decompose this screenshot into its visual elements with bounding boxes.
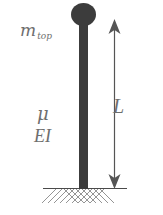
- tip-mass-symbol: m: [20, 20, 36, 40]
- beam: [79, 22, 88, 189]
- fixed-support-hatching: [42, 189, 114, 203]
- length-label: L: [113, 96, 124, 116]
- tip-mass-subscript: top: [37, 31, 52, 41]
- tip-mass: [71, 3, 96, 26]
- flexural-rigidity-label: EI: [34, 127, 51, 145]
- mass-per-length-label: μ: [37, 105, 49, 123]
- tip-mass-label: mtop: [20, 22, 52, 41]
